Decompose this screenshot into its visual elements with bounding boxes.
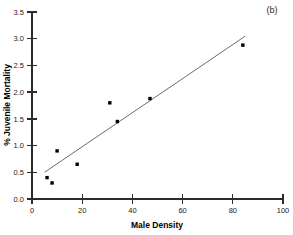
x-axis-title: Male Density — [131, 220, 183, 230]
y-tick-label: 0.5 — [14, 168, 24, 177]
x-tick-label: 20 — [78, 206, 86, 215]
x-tick-label: 40 — [128, 206, 136, 215]
data-point — [50, 181, 53, 184]
y-axis-title: % Juvenile Mortality — [2, 64, 12, 146]
data-point — [108, 101, 111, 104]
y-tick-label: 1.5 — [14, 115, 24, 124]
y-tick-label: 2.5 — [14, 61, 24, 70]
y-tick-label: 3.0 — [14, 34, 24, 43]
y-tick-label: 1.0 — [14, 141, 24, 150]
data-point — [241, 43, 244, 46]
figure-panel-b: 0.0 0.5 1.0 1.5 2.0 2.5 3.0 3.5 0 20 40 … — [0, 0, 293, 235]
y-tick-label: 0.0 — [14, 195, 24, 204]
x-axis-tick-labels: 0 20 40 60 80 100 — [30, 206, 289, 215]
panel-label: (b) — [267, 5, 278, 15]
data-point — [116, 120, 119, 123]
x-tick-label: 60 — [178, 206, 186, 215]
data-point — [45, 176, 48, 179]
data-point — [55, 149, 58, 152]
x-tick-label: 80 — [229, 206, 237, 215]
data-point — [148, 97, 151, 100]
scatter-plot: 0.0 0.5 1.0 1.5 2.0 2.5 3.0 3.5 0 20 40 … — [0, 0, 293, 235]
data-point-group — [45, 43, 244, 184]
x-tick-label: 0 — [30, 206, 34, 215]
y-axis-tick-labels: 0.0 0.5 1.0 1.5 2.0 2.5 3.0 3.5 — [14, 8, 24, 204]
y-tick-label: 2.0 — [14, 88, 24, 97]
data-point — [75, 163, 78, 166]
regression-line — [45, 36, 246, 172]
y-tick-label: 3.5 — [14, 8, 24, 17]
x-tick-label: 100 — [277, 206, 290, 215]
